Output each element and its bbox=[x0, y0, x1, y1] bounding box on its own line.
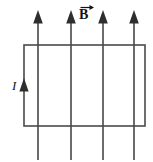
figure-background bbox=[0, 0, 153, 162]
physics-figure: B I bbox=[0, 0, 153, 162]
figure-canvas bbox=[0, 0, 153, 162]
